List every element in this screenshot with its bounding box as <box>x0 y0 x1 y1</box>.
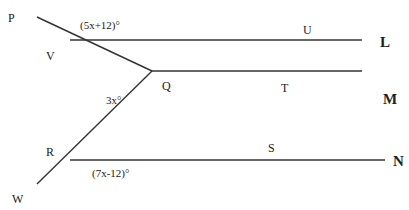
point-label-u: U <box>303 24 312 36</box>
line-label-m: M <box>383 93 397 105</box>
line-label-n: N <box>393 155 404 167</box>
point-label-w: W <box>12 193 23 205</box>
angle-label-top: (5x+12)° <box>80 19 120 31</box>
point-label-q: Q <box>162 80 171 92</box>
angle-label-middle: 3x° <box>106 94 121 106</box>
point-label-v: V <box>46 50 55 62</box>
diagram-lines <box>0 0 409 210</box>
point-label-t: T <box>281 82 288 94</box>
point-label-r: R <box>46 146 54 158</box>
point-label-s: S <box>268 142 275 154</box>
point-label-p: P <box>8 12 15 24</box>
angle-label-bottom: (7x-12)° <box>92 167 129 179</box>
line-label-l: L <box>380 36 390 48</box>
